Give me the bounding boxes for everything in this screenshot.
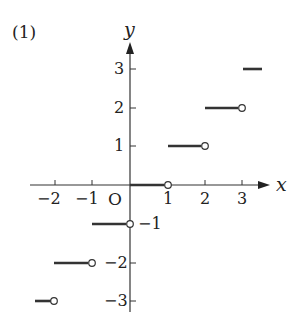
x-tick-label: −1 bbox=[75, 191, 99, 207]
y-tick-label: −2 bbox=[104, 255, 128, 271]
y-tick-label: −1 bbox=[138, 216, 162, 232]
origin-label: O bbox=[108, 191, 122, 208]
open-dot-icon bbox=[51, 298, 58, 305]
y-axis-arrow-icon bbox=[126, 42, 134, 54]
x-tick-label: 3 bbox=[237, 191, 247, 207]
y-tick-label: −3 bbox=[104, 293, 128, 309]
open-dot-icon bbox=[89, 260, 96, 267]
x-tick-label: 2 bbox=[200, 191, 210, 207]
step-function-graph bbox=[0, 0, 299, 316]
open-dot-icon bbox=[165, 182, 172, 189]
y-tick-label: 2 bbox=[114, 100, 124, 116]
open-dot-icon bbox=[202, 143, 209, 150]
x-tick-label: −2 bbox=[37, 191, 61, 207]
figure-label: (1) bbox=[12, 24, 36, 41]
open-dot-icon bbox=[239, 105, 246, 112]
open-dot-icon bbox=[127, 221, 134, 228]
y-axis-label: y bbox=[124, 20, 135, 39]
x-axis-arrow-icon bbox=[258, 181, 270, 189]
x-axis-label: x bbox=[276, 175, 287, 194]
y-tick-label: 1 bbox=[114, 138, 124, 154]
x-tick-label: 1 bbox=[163, 191, 173, 207]
y-tick-label: 3 bbox=[114, 61, 124, 77]
